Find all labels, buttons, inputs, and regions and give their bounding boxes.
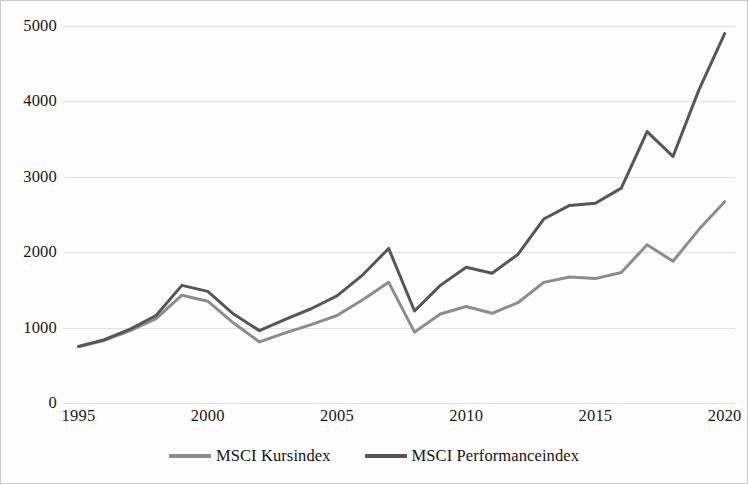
- legend-label: MSCI Kursindex: [216, 447, 331, 465]
- legend-label: MSCI Performanceindex: [412, 447, 580, 465]
- gridline: [63, 403, 735, 404]
- x-tick-label: 2010: [449, 407, 483, 425]
- legend-item[interactable]: MSCI Kursindex: [169, 447, 331, 465]
- series-layer: [63, 26, 735, 403]
- y-tick-label: 3000: [5, 169, 57, 185]
- x-tick-label: 2005: [320, 407, 354, 425]
- x-tick-label: 2020: [708, 407, 742, 425]
- plot-area: [63, 26, 735, 403]
- legend-item[interactable]: MSCI Performanceindex: [365, 447, 580, 465]
- series-line: [79, 202, 725, 347]
- y-tick-label: 0: [5, 395, 57, 411]
- chart-legend: MSCI KursindexMSCI Performanceindex: [1, 447, 747, 465]
- y-tick-label: 1000: [5, 320, 57, 336]
- chart-figure: 010002000300040005000 199520002005201020…: [0, 0, 748, 484]
- legend-swatch-icon: [169, 454, 211, 458]
- x-tick-label: 2000: [191, 407, 225, 425]
- x-tick-label: 1995: [62, 407, 96, 425]
- y-tick-label: 5000: [5, 18, 57, 34]
- x-tick-label: 2015: [579, 407, 613, 425]
- y-tick-label: 2000: [5, 244, 57, 260]
- y-tick-label: 4000: [5, 93, 57, 109]
- legend-swatch-icon: [365, 454, 407, 458]
- x-axis-tick-labels: 199520002005201020152020: [63, 407, 735, 433]
- y-axis-tick-labels: 010002000300040005000: [1, 26, 57, 403]
